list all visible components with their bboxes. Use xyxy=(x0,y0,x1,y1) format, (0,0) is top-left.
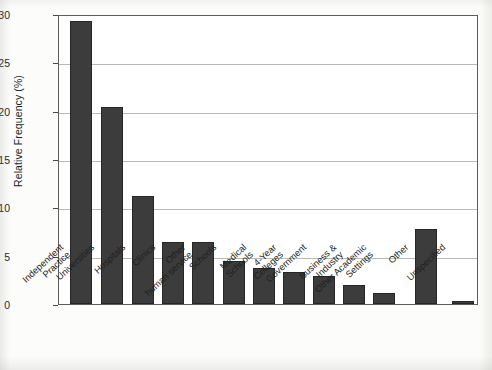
y-axis-tick-label: 10 xyxy=(0,202,10,214)
bar xyxy=(452,301,474,304)
y-axis-tick-label: 20 xyxy=(0,106,10,118)
y-axis-tick-label: 15 xyxy=(0,154,10,166)
y-axis-tick-label: 30 xyxy=(0,9,10,21)
y-axis-label-wrapper: Relative Frequency (%) xyxy=(0,0,1,1)
y-axis-tick-label: 25 xyxy=(0,57,10,69)
scanned-page: Relative Frequency (%) 051015202530 Inde… xyxy=(0,0,492,370)
x-axis-labels: IndependentPracticeUniversitiesHospitals… xyxy=(58,307,478,369)
y-axis-tick-label: 5 xyxy=(0,251,10,263)
y-axis-label: Relative Frequency (%) xyxy=(12,46,24,216)
